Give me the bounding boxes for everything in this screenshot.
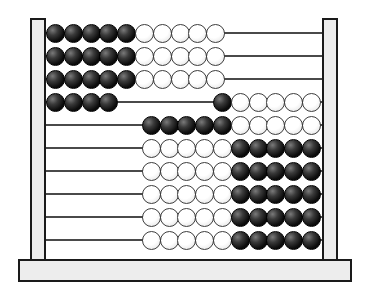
bead-white-row7[interactable] (213, 162, 232, 181)
bead-black-row3[interactable] (99, 70, 118, 89)
bead-white-row2[interactable] (135, 47, 154, 66)
bead-white-row6[interactable] (177, 139, 196, 158)
bead-white-row8[interactable] (213, 185, 232, 204)
bead-white-row7[interactable] (142, 162, 161, 181)
bead-white-row7[interactable] (160, 162, 179, 181)
bead-white-row4[interactable] (266, 93, 285, 112)
bead-white-row8[interactable] (160, 185, 179, 204)
bead-black-row6[interactable] (284, 139, 303, 158)
bead-white-row6[interactable] (195, 139, 214, 158)
bead-white-row9[interactable] (213, 208, 232, 227)
bead-black-row1[interactable] (117, 24, 136, 43)
bead-white-row4[interactable] (284, 93, 303, 112)
bead-black-row4[interactable] (99, 93, 118, 112)
bead-black-row5[interactable] (195, 116, 214, 135)
bead-white-row9[interactable] (142, 208, 161, 227)
bead-white-row4[interactable] (231, 93, 250, 112)
bead-black-row8[interactable] (266, 185, 285, 204)
bead-white-row10[interactable] (177, 231, 196, 250)
bead-black-row5[interactable] (177, 116, 196, 135)
bead-black-row4[interactable] (46, 93, 65, 112)
bead-black-row1[interactable] (99, 24, 118, 43)
bead-white-row7[interactable] (195, 162, 214, 181)
bead-white-row1[interactable] (135, 24, 154, 43)
bead-white-row5[interactable] (284, 116, 303, 135)
bead-white-row3[interactable] (171, 70, 190, 89)
bead-white-row1[interactable] (153, 24, 172, 43)
bead-black-row10[interactable] (302, 231, 321, 250)
bead-black-row6[interactable] (249, 139, 268, 158)
bead-black-row2[interactable] (46, 47, 65, 66)
bead-white-row10[interactable] (195, 231, 214, 250)
bead-white-row4[interactable] (302, 93, 321, 112)
bead-white-row9[interactable] (195, 208, 214, 227)
bead-white-row5[interactable] (302, 116, 321, 135)
bead-black-row3[interactable] (82, 70, 101, 89)
bead-black-row1[interactable] (46, 24, 65, 43)
bead-black-row8[interactable] (249, 185, 268, 204)
bead-white-row5[interactable] (231, 116, 250, 135)
bead-black-row1[interactable] (64, 24, 83, 43)
bead-black-row10[interactable] (249, 231, 268, 250)
bead-white-row1[interactable] (206, 24, 225, 43)
bead-white-row5[interactable] (249, 116, 268, 135)
bead-black-row9[interactable] (249, 208, 268, 227)
bead-black-row2[interactable] (64, 47, 83, 66)
bead-black-row10[interactable] (284, 231, 303, 250)
bead-black-row3[interactable] (64, 70, 83, 89)
bead-white-row9[interactable] (177, 208, 196, 227)
bead-black-row9[interactable] (302, 208, 321, 227)
bead-black-row4[interactable] (64, 93, 83, 112)
bead-white-row6[interactable] (213, 139, 232, 158)
bead-black-row5[interactable] (213, 116, 232, 135)
bead-white-row2[interactable] (188, 47, 207, 66)
bead-black-row10[interactable] (266, 231, 285, 250)
bead-black-row5[interactable] (142, 116, 161, 135)
bead-white-row5[interactable] (266, 116, 285, 135)
bead-black-row6[interactable] (302, 139, 321, 158)
bead-black-row3[interactable] (46, 70, 65, 89)
bead-white-row2[interactable] (206, 47, 225, 66)
bead-white-row8[interactable] (177, 185, 196, 204)
bead-black-row9[interactable] (231, 208, 250, 227)
bead-white-row10[interactable] (160, 231, 179, 250)
bead-black-row7[interactable] (302, 162, 321, 181)
bead-black-row8[interactable] (284, 185, 303, 204)
bead-white-row7[interactable] (177, 162, 196, 181)
bead-black-row5[interactable] (160, 116, 179, 135)
bead-black-row1[interactable] (82, 24, 101, 43)
bead-black-row9[interactable] (266, 208, 285, 227)
bead-white-row3[interactable] (153, 70, 172, 89)
bead-black-row2[interactable] (99, 47, 118, 66)
bead-white-row3[interactable] (135, 70, 154, 89)
bead-black-row8[interactable] (231, 185, 250, 204)
bead-white-row6[interactable] (160, 139, 179, 158)
bead-white-row3[interactable] (206, 70, 225, 89)
bead-black-row7[interactable] (231, 162, 250, 181)
bead-white-row1[interactable] (171, 24, 190, 43)
bead-white-row8[interactable] (195, 185, 214, 204)
bead-white-row1[interactable] (188, 24, 207, 43)
bead-white-row3[interactable] (188, 70, 207, 89)
bead-white-row2[interactable] (171, 47, 190, 66)
bead-white-row10[interactable] (213, 231, 232, 250)
bead-black-row8[interactable] (302, 185, 321, 204)
bead-black-row4[interactable] (82, 93, 101, 112)
bead-black-row9[interactable] (284, 208, 303, 227)
bead-white-row4[interactable] (249, 93, 268, 112)
bead-white-row9[interactable] (160, 208, 179, 227)
bead-black-row2[interactable] (117, 47, 136, 66)
bead-black-row7[interactable] (266, 162, 285, 181)
bead-white-row8[interactable] (142, 185, 161, 204)
bead-black-row2[interactable] (82, 47, 101, 66)
bead-black-row10[interactable] (231, 231, 250, 250)
bead-black-row4[interactable] (213, 93, 232, 112)
bead-white-row6[interactable] (142, 139, 161, 158)
bead-black-row6[interactable] (266, 139, 285, 158)
bead-black-row6[interactable] (231, 139, 250, 158)
bead-white-row2[interactable] (153, 47, 172, 66)
bead-black-row7[interactable] (249, 162, 268, 181)
bead-white-row10[interactable] (142, 231, 161, 250)
bead-black-row3[interactable] (117, 70, 136, 89)
bead-black-row7[interactable] (284, 162, 303, 181)
